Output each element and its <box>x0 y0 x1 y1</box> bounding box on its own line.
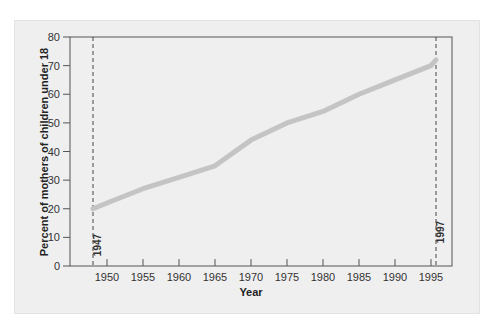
reference-lines <box>93 37 436 266</box>
marker-label-1947: 1947 <box>92 233 103 256</box>
x-tick-label: 1955 <box>131 271 155 283</box>
x-tick-label: 1990 <box>383 271 407 283</box>
y-tick-label: 0 <box>54 260 60 272</box>
x-tick-label: 1965 <box>203 271 227 283</box>
y-axis-title: Percent of mothers of children under 18 <box>38 48 50 256</box>
x-tick-label: 1970 <box>239 271 263 283</box>
x-tick-label: 1985 <box>347 271 371 283</box>
x-axis-title: Year <box>239 286 263 298</box>
y-axis-ticks: 01020304050607080 <box>48 31 70 272</box>
x-tick-label: 1960 <box>167 271 191 283</box>
x-tick-label: 1995 <box>419 271 443 283</box>
x-tick-label: 1980 <box>311 271 335 283</box>
x-axis-ticks: 1950195519601965197019751980198519901995 <box>95 259 443 283</box>
plot-frame <box>70 37 452 266</box>
y-tick-label: 80 <box>48 31 60 43</box>
data-line <box>93 60 436 209</box>
line-chart: 01020304050607080 1950195519601965197019… <box>0 0 490 328</box>
x-tick-label: 1975 <box>275 271 299 283</box>
x-tick-label: 1950 <box>95 271 119 283</box>
marker-label-1997: 1997 <box>435 220 446 243</box>
